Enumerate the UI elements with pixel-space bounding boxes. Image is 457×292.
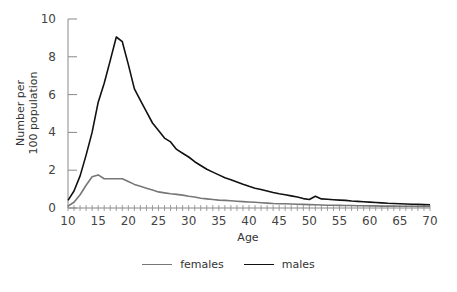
x-tick-label: 50 — [302, 214, 317, 228]
x-tick-label: 30 — [181, 214, 196, 228]
x-tick-label: 15 — [91, 214, 106, 228]
legend-label-males: males — [282, 258, 315, 271]
x-tick-label: 55 — [332, 214, 347, 228]
x-tick-label: 40 — [241, 214, 256, 228]
x-tick-label: 25 — [151, 214, 166, 228]
y-tick-label: 10 — [41, 12, 56, 26]
y-axis-title: Number per100 population — [14, 71, 40, 154]
x-tick-label: 35 — [211, 214, 226, 228]
y-tick-label: 2 — [48, 163, 56, 177]
series-line-males — [68, 37, 430, 205]
legend-item-males: males — [244, 258, 315, 271]
y-tick-label: 0 — [48, 201, 56, 215]
legend-label-females: females — [180, 258, 224, 271]
axes: 024681010152025303540455055606570AgeNumb… — [14, 12, 438, 244]
y-tick-label: 8 — [48, 50, 56, 64]
legend-item-females: females — [142, 258, 224, 271]
x-tick-label: 70 — [422, 214, 437, 228]
x-tick-label: 65 — [392, 214, 407, 228]
x-tick-label: 10 — [60, 214, 75, 228]
legend: females males — [0, 258, 457, 271]
y-tick-label: 6 — [48, 88, 56, 102]
line-chart: 024681010152025303540455055606570AgeNumb… — [0, 0, 457, 292]
plot-lines — [68, 37, 430, 207]
x-tick-label: 45 — [272, 214, 287, 228]
females-swatch-icon — [142, 264, 172, 265]
males-swatch-icon — [244, 264, 274, 265]
y-tick-label: 4 — [48, 125, 56, 139]
x-tick-label: 20 — [121, 214, 136, 228]
x-axis-title: Age — [237, 231, 259, 244]
x-tick-label: 60 — [362, 214, 377, 228]
